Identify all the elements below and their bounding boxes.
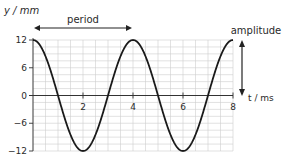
y-axis-label: y / mm [3,5,39,16]
y-tick-label: 12 [16,35,27,45]
y-tick-label: 0 [21,91,27,101]
x-tick-label: 6 [180,102,186,112]
y-tick-label: −6 [14,118,28,128]
y-tick-label: −12 [8,146,27,156]
x-tick-label: 8 [230,102,236,112]
waveform-chart: y / mm t / ms 12 6 0 −6 −12 2 4 6 8 peri… [0,0,282,164]
x-axis-label: t / ms [248,93,274,103]
period-label: period [67,14,99,25]
x-tick-label: 4 [130,102,136,112]
amplitude-label: amplitude [231,25,282,36]
arrow-up-icon [239,40,245,47]
axes [29,38,233,151]
y-tick-label: 6 [21,63,27,73]
arrow-left-icon [34,25,40,31]
arrow-down-icon [239,89,245,96]
x-tick-label: 2 [80,102,86,112]
amplitude-annotation: amplitude [231,25,282,96]
period-annotation: period [34,14,132,31]
arrow-right-icon [126,25,132,31]
